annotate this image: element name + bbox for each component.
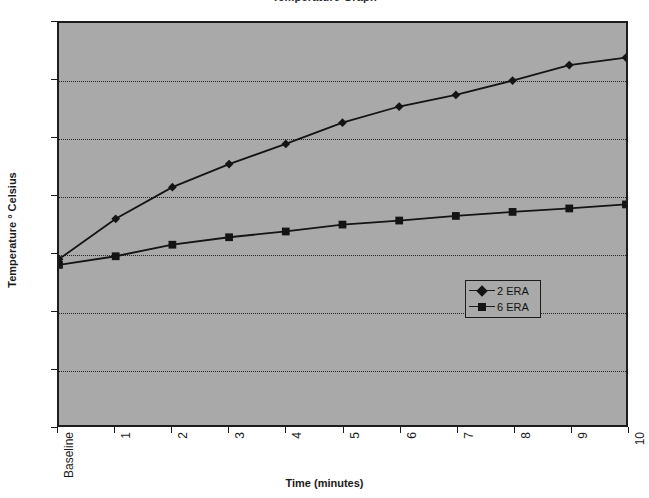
legend-label: 6 ERA bbox=[497, 301, 529, 313]
x-tick-mark-4 bbox=[285, 427, 286, 433]
data-point bbox=[282, 228, 290, 236]
diamond-marker-icon bbox=[476, 285, 487, 296]
x-tick-label-7: 7 bbox=[462, 432, 476, 439]
data-point bbox=[395, 102, 404, 111]
x-tick-label-3: 3 bbox=[233, 432, 247, 439]
data-point bbox=[622, 201, 626, 209]
plot-inner bbox=[59, 23, 626, 425]
x-tick-mark-baseline bbox=[57, 427, 58, 433]
data-point bbox=[565, 61, 574, 70]
x-tick-label-5: 5 bbox=[348, 432, 362, 439]
data-point bbox=[112, 252, 120, 260]
plot-area bbox=[57, 21, 628, 427]
data-point bbox=[168, 183, 177, 192]
square-marker-icon bbox=[478, 303, 486, 311]
data-point bbox=[622, 53, 626, 62]
legend-swatch-square-icon bbox=[469, 300, 495, 314]
data-point bbox=[281, 140, 290, 149]
x-tick-mark-1 bbox=[114, 427, 115, 433]
y-axis-title: Temperature ° Celsius bbox=[6, 130, 18, 330]
x-tick-mark-5 bbox=[343, 427, 344, 433]
data-point bbox=[339, 221, 347, 229]
data-point bbox=[452, 212, 460, 220]
x-tick-mark-9 bbox=[571, 427, 572, 433]
x-tick-label-8: 8 bbox=[519, 432, 533, 439]
series-line-6-era bbox=[59, 204, 626, 264]
data-point bbox=[59, 261, 63, 269]
chart-legend: 2 ERA6 ERA bbox=[465, 280, 541, 318]
x-tick-label-2: 2 bbox=[176, 432, 190, 439]
x-tick-label-4: 4 bbox=[290, 432, 304, 439]
x-tick-mark-2 bbox=[171, 427, 172, 433]
x-tick-mark-8 bbox=[514, 427, 515, 433]
x-tick-label-6: 6 bbox=[405, 432, 419, 439]
x-axis-title: Time (minutes) bbox=[0, 477, 649, 489]
x-tick-label-1: 1 bbox=[119, 432, 133, 439]
data-point bbox=[508, 76, 517, 85]
data-point bbox=[565, 205, 573, 213]
x-tick-mark-6 bbox=[400, 427, 401, 433]
legend-item[interactable]: 6 ERA bbox=[469, 299, 537, 315]
legend-item[interactable]: 2 ERA bbox=[469, 283, 537, 299]
x-tick-mark-3 bbox=[228, 427, 229, 433]
data-point bbox=[169, 241, 177, 249]
legend-label: 2 ERA bbox=[497, 285, 529, 297]
data-point bbox=[338, 118, 347, 127]
data-point bbox=[395, 217, 403, 225]
x-tick-mark-7 bbox=[457, 427, 458, 433]
x-tick-label-9: 9 bbox=[576, 432, 590, 439]
series-line-2-era bbox=[59, 58, 626, 260]
legend-swatch-diamond-icon bbox=[469, 284, 495, 298]
data-point bbox=[225, 233, 233, 241]
data-point bbox=[225, 160, 234, 169]
data-point bbox=[509, 208, 517, 216]
x-tick-label-10: 10 bbox=[633, 432, 647, 445]
series-layer bbox=[59, 23, 626, 425]
x-tick-label-baseline: Baseline bbox=[62, 432, 76, 478]
x-tick-mark-10 bbox=[628, 427, 629, 433]
data-point bbox=[452, 91, 461, 100]
chart-title: Temperature Graph bbox=[0, 0, 649, 3]
